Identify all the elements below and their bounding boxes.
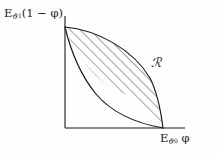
region-label: ℛ — [151, 56, 161, 69]
x-axis-label: Eϑ0 φ — [160, 133, 190, 146]
region-fill — [65, 27, 163, 128]
x-axis-label-expression: φ — [181, 131, 189, 145]
y-axis-label: Eϑ1(1 − φ) — [4, 8, 63, 21]
y-axis-label-expression: (1 − φ) — [22, 6, 63, 20]
x-axis-label-subscript-index: 0 — [174, 137, 178, 144]
risk-region-figure: Eϑ1(1 − φ) Eϑ0 φ ℛ — [0, 0, 217, 155]
